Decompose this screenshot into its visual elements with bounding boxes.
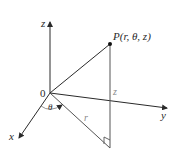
point-label: P(r, θ, z) [112, 30, 151, 43]
height-label: z [112, 86, 117, 97]
angle-label: θ [48, 102, 53, 112]
radius-label: r [84, 112, 88, 123]
radius-line [50, 93, 110, 148]
origin-label: 0 [40, 87, 46, 99]
z-axis-label: z [40, 17, 46, 29]
point-p [108, 42, 112, 46]
cylindrical-coordinates-diagram: 0 z y x P(r, θ, z) z r θ [0, 0, 172, 162]
y-axis [50, 93, 167, 108]
y-axis-label: y [160, 109, 166, 121]
position-line [50, 44, 110, 93]
x-axis [19, 93, 50, 138]
x-axis-label: x [8, 130, 14, 142]
